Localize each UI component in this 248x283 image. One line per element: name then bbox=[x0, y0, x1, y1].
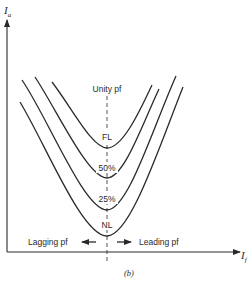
curve-nl bbox=[20, 87, 183, 236]
x-axis-label: If bbox=[240, 249, 248, 264]
y-axis-label: Ia bbox=[3, 4, 12, 19]
curves bbox=[20, 76, 183, 236]
curve-25 bbox=[22, 76, 176, 210]
unity-pf-label: Unity pf bbox=[93, 84, 122, 94]
leading-pf-label: Leading pf bbox=[139, 237, 179, 247]
label-50: 50% bbox=[98, 163, 115, 173]
figure-caption: (b) bbox=[124, 268, 134, 278]
lagging-pf-label: Lagging pf bbox=[28, 237, 68, 247]
label-nl: NL bbox=[102, 220, 113, 230]
label-25: 25% bbox=[98, 194, 115, 204]
v-curves-diagram: Ia If Unity pf FL 50% 25% NL Lagging pf … bbox=[0, 0, 248, 283]
label-fl: FL bbox=[102, 132, 112, 142]
